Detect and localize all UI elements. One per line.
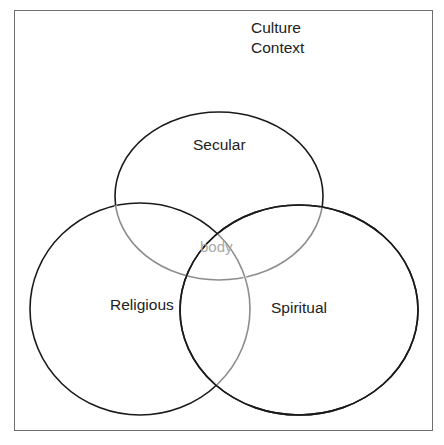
culture-context-label: Culture Context [251,18,304,58]
culture-context-line-2: Context [251,38,304,58]
secular-label: Secular [193,135,246,155]
spiritual-label: Spiritual [271,298,327,318]
venn-diagram [0,0,444,445]
culture-context-line-1: Culture [251,18,304,38]
religious-label: Religious [110,295,174,315]
body-center-label: body [200,237,233,257]
